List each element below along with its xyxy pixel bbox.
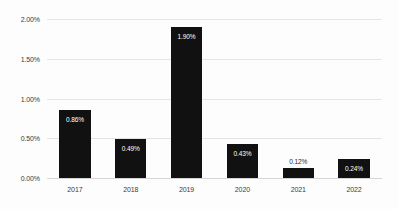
bar[interactable] — [171, 27, 202, 178]
x-axis-tick-label: 2020 — [215, 186, 271, 193]
y-axis-tick-label: 1.00% — [21, 95, 40, 102]
bar-chart-figure: 0.00%0.50%1.00%1.50%2.00% 0.86%0.49%1.90… — [0, 0, 398, 209]
bar-value-label: 0.24% — [338, 165, 369, 172]
bar-group[interactable]: 0.49% — [115, 19, 146, 178]
bar-group[interactable]: 0.86% — [59, 19, 90, 178]
y-axis-tick-label: 1.50% — [21, 55, 40, 62]
x-axis-tick-label: 2021 — [270, 186, 326, 193]
bars-layer: 0.86%0.49%1.90%0.43%0.12%0.24% — [47, 19, 382, 178]
gridline — [47, 178, 382, 179]
bar-group[interactable]: 1.90% — [171, 19, 202, 178]
bar-value-label: 0.86% — [59, 116, 90, 123]
bar-group[interactable]: 0.12% — [283, 19, 314, 178]
bar-value-label: 1.90% — [171, 33, 202, 40]
bar-group[interactable]: 0.43% — [227, 19, 258, 178]
x-axis-tick-label: 2019 — [159, 186, 215, 193]
x-axis-tick-label: 2022 — [326, 186, 382, 193]
bar-value-label: 0.49% — [115, 145, 146, 152]
bar-value-label: 0.43% — [227, 150, 258, 157]
x-axis-tick-label: 2018 — [103, 186, 159, 193]
y-axis-tick-label: 0.50% — [21, 135, 40, 142]
bar[interactable] — [283, 168, 314, 178]
x-axis: 201720182019202020212022 — [47, 182, 382, 200]
x-axis-tick-label: 2017 — [47, 186, 103, 193]
y-axis-tick-label: 2.00% — [21, 16, 40, 23]
y-axis-tick-label: 0.00% — [21, 175, 40, 182]
bar-value-label: 0.12% — [283, 158, 314, 165]
bar-group[interactable]: 0.24% — [338, 19, 369, 178]
plot-area: 0.86%0.49%1.90%0.43%0.12%0.24% — [47, 19, 382, 178]
y-axis: 0.00%0.50%1.00%1.50%2.00% — [0, 0, 44, 209]
